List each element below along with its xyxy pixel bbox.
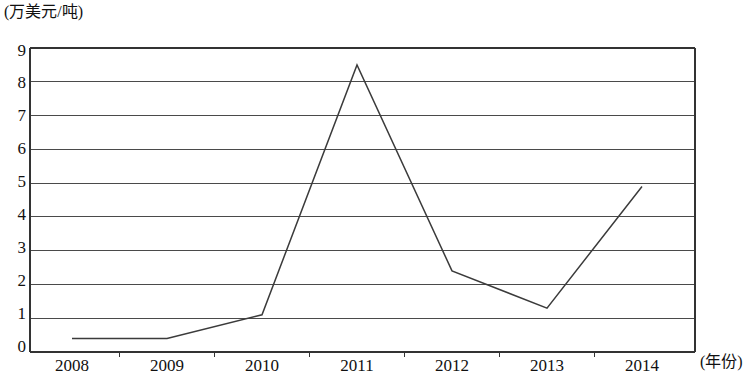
gridlines [30, 48, 695, 352]
plot-frame [30, 48, 695, 352]
chart-container: (万美元/吨) (年份) 9 8 7 6 5 4 3 2 1 0 2008 20… [0, 0, 752, 378]
plot-area [0, 0, 752, 378]
data-series-line [72, 65, 642, 339]
x-tick-marks [120, 352, 595, 357]
